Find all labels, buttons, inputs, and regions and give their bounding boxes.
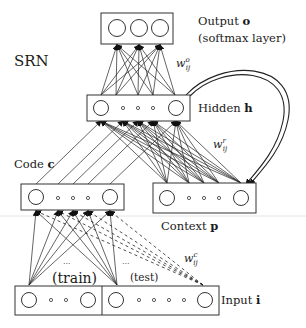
recurrent-weight-label: wrij — [213, 137, 228, 153]
context-to-hidden-edges — [101, 121, 241, 183]
test-label: (test) — [130, 271, 158, 283]
output-unit — [152, 20, 169, 37]
ellipsis-dot — [187, 196, 190, 199]
srn-diagram: SRN — [0, 0, 306, 328]
context-layer — [153, 183, 256, 213]
code-layer-label: Code c — [14, 157, 55, 171]
output-unit — [131, 20, 148, 37]
output-weight-label: woij — [176, 56, 191, 72]
train-ellipsis: ... — [63, 257, 71, 266]
output-layer — [101, 13, 173, 44]
ellipsis-dot — [136, 106, 139, 109]
input-unit — [81, 293, 96, 308]
hidden-to-output-edges — [101, 45, 175, 95]
ellipsis-dot — [137, 298, 140, 301]
ellipsis-dot — [64, 298, 67, 301]
input-unit — [22, 293, 37, 308]
code-unit — [103, 190, 118, 205]
ellipsis-dot — [217, 196, 220, 199]
output-unit — [109, 20, 126, 37]
ellipsis-dot — [86, 196, 89, 199]
hidden-unit — [169, 101, 184, 116]
ellipsis-dot — [152, 298, 155, 301]
input-layer-label: Input i — [221, 293, 261, 307]
context-unit — [234, 191, 249, 206]
code-unit — [29, 190, 44, 205]
train-label: (train) — [52, 270, 97, 286]
input-unit — [198, 293, 213, 308]
ellipsis-dot — [49, 298, 52, 301]
diagram-title: SRN — [14, 52, 49, 70]
ellipsis-dot — [182, 298, 185, 301]
hidden-layer — [87, 95, 190, 121]
context-unit — [160, 191, 175, 206]
ellipsis-dot — [71, 196, 74, 199]
input-unit — [109, 293, 124, 308]
hidden-layer-label: Hidden h — [198, 101, 253, 115]
output-layer-label: Output o — [198, 14, 251, 28]
output-layer-note: (softmax layer) — [198, 31, 286, 45]
ellipsis-dot — [121, 106, 124, 109]
ellipsis-dot — [202, 196, 205, 199]
ellipsis-dot — [151, 106, 154, 109]
code-weight-label: wcij — [184, 251, 199, 267]
input-layer — [15, 286, 219, 315]
hidden-unit — [94, 101, 109, 116]
ellipsis-dot — [56, 196, 59, 199]
context-layer-label: Context p — [161, 219, 218, 233]
ellipsis-dot — [167, 298, 170, 301]
test-ellipsis: ... — [122, 257, 130, 266]
code-layer — [21, 184, 124, 210]
